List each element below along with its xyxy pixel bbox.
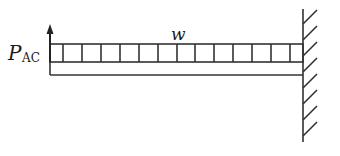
cantilever-diagram: w P AC — [0, 0, 340, 156]
load-label: w — [171, 24, 186, 44]
fixed-wall — [303, 9, 317, 142]
force-arrow-icon — [47, 24, 54, 62]
force-label: P — [7, 41, 22, 65]
beam — [50, 62, 303, 75]
distributed-load — [50, 44, 303, 62]
force-label-subscript: AC — [21, 51, 40, 65]
